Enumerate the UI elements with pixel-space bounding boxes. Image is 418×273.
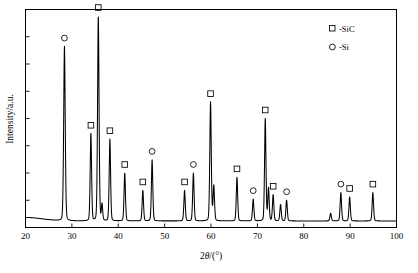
x-tick-label-20: 20 (21, 231, 31, 241)
x-axis-tick-labels: 2030405060708090100 (21, 231, 404, 241)
x-tick-label-100: 100 (390, 231, 404, 241)
y-axis-title: Intensity/a.u. (5, 94, 15, 144)
x-axis-title-suffix: /(°) (209, 251, 222, 262)
legend-label-sic: -SiC (339, 24, 355, 34)
x-tick-label-70: 70 (253, 231, 263, 241)
xrd-plot-svg: 2030405060708090100 Intensity/a.u. 2θ/(°… (0, 0, 418, 273)
x-axis-title: 2θ/(°) (200, 251, 222, 262)
x-tick-label-80: 80 (299, 231, 309, 241)
x-tick-label-50: 50 (160, 231, 170, 241)
x-tick-label-40: 40 (114, 231, 124, 241)
x-tick-label-60: 60 (207, 231, 217, 241)
xrd-chart-figure: 2030405060708090100 Intensity/a.u. 2θ/(°… (0, 0, 418, 273)
x-tick-label-30: 30 (67, 231, 77, 241)
legend-label-si: -Si (339, 42, 350, 52)
x-tick-label-90: 90 (346, 231, 356, 241)
